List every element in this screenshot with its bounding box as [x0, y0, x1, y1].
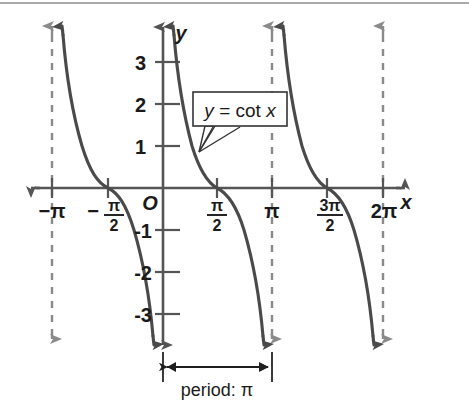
y-tick-label-neg-2: -2 — [134, 262, 152, 284]
x-tick-label-3pi-over-2-numerator: 3π — [319, 197, 340, 214]
x-tick-label-neg-pi-over-2-numerator: π — [108, 197, 120, 214]
x-tick-label-pi-over-2-numerator: π — [211, 197, 223, 214]
callout-equation-text: y = cot x — [202, 100, 277, 121]
x-tick-label-pi-over-2-denominator: 2 — [213, 217, 222, 234]
curve-branch-pi-to-2pi — [284, 35, 373, 336]
x-tick-label-pi: π — [264, 200, 279, 222]
y-tick-label-1: 1 — [135, 136, 146, 158]
x-axis-label: x — [399, 191, 412, 213]
y-tick-label-neg-3: -3 — [134, 304, 152, 326]
x-tick-label-3pi-over-2-denominator: 2 — [326, 217, 335, 234]
callout-eq-cot: = cot — [214, 100, 266, 121]
y-tick-label-2: 2 — [135, 94, 146, 116]
origin-label: O — [142, 192, 158, 214]
y-tick-label-neg-1: -1 — [134, 220, 152, 242]
x-tick-label-neg-pi-over-2: − π 2 — [87, 197, 124, 234]
period-label-value: π — [241, 380, 253, 400]
period-label-text: period: π — [181, 380, 253, 400]
period-arrowhead-right — [259, 362, 268, 372]
x-tick-label-neg-pi-over-2-denominator: 2 — [110, 217, 119, 234]
callout-x-symbol: x — [265, 100, 277, 121]
curve-branch-3-arrow-down — [373, 336, 374, 345]
curve-branch-2-arrow-down — [263, 336, 264, 345]
x-tick-label-neg-pi-over-2-sign: − — [87, 200, 99, 222]
curve-branch-1-arrow-down — [153, 336, 154, 345]
period-arrowhead-left — [167, 362, 176, 372]
curve-branch-0-to-pi — [174, 35, 263, 336]
curve-branch-1-arrow-up — [62, 26, 63, 35]
y-axis-label: y — [174, 22, 187, 44]
graph-canvas: 3 2 1 -1 -2 -3 −π − π 2 π 2 — [0, 0, 469, 411]
curve-branch-2-arrow-up — [173, 26, 174, 35]
x-tick-label-3pi-over-2: 3π 2 — [317, 197, 343, 234]
period-measure: period: π — [163, 352, 272, 400]
equation-callout: y = cot x — [193, 92, 287, 152]
period-label-prefix: period: — [181, 380, 241, 400]
curve-branch-3-arrow-up — [283, 26, 284, 35]
x-tick-label-neg-pi: −π — [39, 200, 66, 222]
x-tick-label-2pi: 2π — [371, 200, 397, 222]
cotangent-graph-figure: 3 2 1 -1 -2 -3 −π − π 2 π 2 — [0, 0, 469, 411]
x-tick-label-pi-over-2: π 2 — [207, 197, 227, 234]
y-tick-label-3: 3 — [135, 52, 146, 74]
